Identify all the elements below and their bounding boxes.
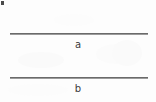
line-segment-figure: a b (0, 0, 156, 102)
scan-noise-blotch (54, 14, 94, 26)
line-segment-b-label: b (0, 83, 156, 95)
corner-speck-artifact (1, 1, 4, 5)
segment-group-b: b (0, 71, 156, 99)
segment-group-a: a (0, 27, 156, 55)
line-segment-a (10, 33, 148, 34)
line-segment-a-label: a (0, 39, 156, 51)
line-segment-b (10, 77, 148, 78)
